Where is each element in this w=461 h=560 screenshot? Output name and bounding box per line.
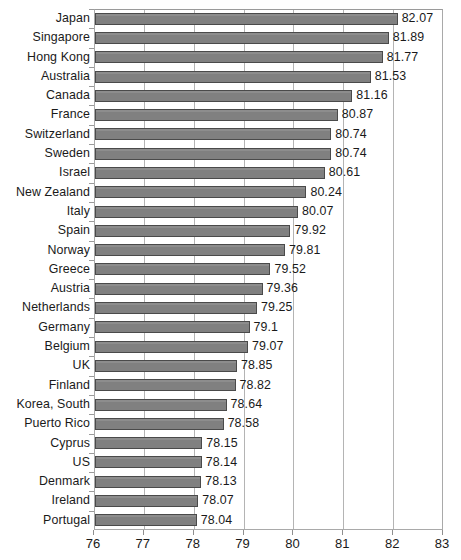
bar-value-label: 80.74 xyxy=(335,125,367,144)
bar-highlight xyxy=(96,361,236,363)
category-label: Ireland xyxy=(51,491,90,510)
bar-value-label: 79.36 xyxy=(267,279,299,298)
bar xyxy=(95,341,248,353)
bar-row: US78.14 xyxy=(0,453,461,472)
bar-highlight xyxy=(96,110,337,112)
bar xyxy=(95,51,383,63)
bar-chart: Japan82.07Singapore81.89Hong Kong81.77Au… xyxy=(0,0,461,560)
bar-highlight xyxy=(96,149,330,151)
category-label: Korea, South xyxy=(16,395,90,414)
y-axis-tick xyxy=(89,279,94,280)
bar-row: Germany79.1 xyxy=(0,318,461,337)
bar-row: Portugal78.04 xyxy=(0,511,461,530)
bar-highlight xyxy=(96,477,200,479)
category-label: Greece xyxy=(49,260,90,279)
bar xyxy=(95,263,270,275)
bar-highlight xyxy=(96,207,297,209)
bar-row: Sweden80.74 xyxy=(0,144,461,163)
bar-highlight xyxy=(96,129,330,131)
y-axis-tick xyxy=(89,376,94,377)
category-label: US xyxy=(73,453,90,472)
y-axis-tick xyxy=(89,511,94,512)
bar-value-label: 80.24 xyxy=(310,183,342,202)
y-axis-tick xyxy=(89,414,94,415)
bar xyxy=(95,399,227,411)
bar-highlight xyxy=(96,245,284,247)
y-axis-tick xyxy=(89,67,94,68)
y-axis-tick xyxy=(89,491,94,492)
category-label: Sweden xyxy=(45,144,90,163)
bar-highlight xyxy=(96,515,196,517)
category-label: Austria xyxy=(51,279,90,298)
bar-highlight xyxy=(96,284,262,286)
y-axis-tick xyxy=(89,337,94,338)
bar xyxy=(95,379,236,391)
bar-value-label: 79.25 xyxy=(261,298,293,317)
bar-highlight xyxy=(96,400,226,402)
category-label: Germany xyxy=(38,318,90,337)
bar-value-label: 79.52 xyxy=(274,260,306,279)
bar-row: Finland78.82 xyxy=(0,376,461,395)
x-axis-tick-label: 82 xyxy=(372,536,412,551)
bar xyxy=(95,456,202,468)
category-label: Japan xyxy=(56,9,90,28)
bar-row: Canada81.16 xyxy=(0,86,461,105)
bar-highlight xyxy=(96,419,223,421)
category-label: Netherlands xyxy=(22,298,90,317)
y-axis-tick xyxy=(89,144,94,145)
bar-value-label: 81.53 xyxy=(375,67,407,86)
y-axis-tick xyxy=(89,105,94,106)
bar-highlight xyxy=(96,303,256,305)
bar-row: Hong Kong81.77 xyxy=(0,48,461,67)
bar-value-label: 82.07 xyxy=(402,9,434,28)
y-axis-tick xyxy=(89,48,94,49)
bar xyxy=(95,148,331,160)
bar-value-label: 81.77 xyxy=(387,48,419,67)
bar-value-label: 78.58 xyxy=(228,414,260,433)
x-axis-tick-label: 79 xyxy=(223,536,263,551)
category-label: Portugal xyxy=(43,511,90,530)
bar-highlight xyxy=(96,322,249,324)
category-label: Switzerland xyxy=(25,125,90,144)
bar-highlight xyxy=(96,342,247,344)
bar xyxy=(95,283,263,295)
bar-rows: Japan82.07Singapore81.89Hong Kong81.77Au… xyxy=(0,0,461,521)
bar-row: Puerto Rico78.58 xyxy=(0,414,461,433)
bar-row: Japan82.07 xyxy=(0,9,461,28)
y-axis-tick xyxy=(89,298,94,299)
bar xyxy=(95,514,197,526)
bar-value-label: 79.81 xyxy=(289,241,321,260)
y-axis-tick xyxy=(89,356,94,357)
bar-value-label: 78.15 xyxy=(206,434,238,453)
bar xyxy=(95,186,306,198)
y-axis-tick xyxy=(89,183,94,184)
bar-highlight xyxy=(96,168,324,170)
category-label: Hong Kong xyxy=(27,48,90,67)
bar xyxy=(95,71,371,83)
bar-highlight xyxy=(96,14,397,16)
bar-row: Denmark78.13 xyxy=(0,472,461,491)
y-axis-tick xyxy=(89,125,94,126)
category-label: Italy xyxy=(67,202,90,221)
bar xyxy=(95,90,352,102)
bar xyxy=(95,225,290,237)
category-label: UK xyxy=(73,356,90,375)
bar-row: Greece79.52 xyxy=(0,260,461,279)
bar xyxy=(95,476,201,488)
x-axis-tick-label: 81 xyxy=(322,536,362,551)
bar-row: Singapore81.89 xyxy=(0,28,461,47)
y-axis-tick xyxy=(89,28,94,29)
x-axis-tick-label: 78 xyxy=(173,536,213,551)
category-label: Spain xyxy=(58,221,90,240)
y-axis-tick xyxy=(89,9,94,10)
y-axis-tick xyxy=(89,318,94,319)
bar-highlight xyxy=(96,52,382,54)
category-label: Belgium xyxy=(45,337,90,356)
bar-value-label: 81.89 xyxy=(393,28,425,47)
x-axis-tick xyxy=(442,530,443,535)
x-axis-tick xyxy=(93,530,94,535)
bar xyxy=(95,13,398,25)
bar xyxy=(95,302,257,314)
bar-value-label: 78.85 xyxy=(241,356,273,375)
y-axis-tick xyxy=(89,202,94,203)
